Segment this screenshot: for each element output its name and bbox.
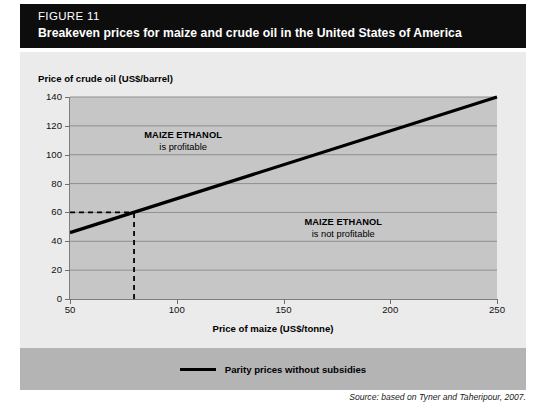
plot-area: MAIZE ETHANOL is profitable MAIZE ETHANO…	[70, 97, 497, 299]
y-tick-label: 100	[28, 150, 62, 160]
annotation-profitable-line2: is profitable	[144, 141, 222, 154]
y-tick-label: 40	[28, 236, 62, 246]
x-tick-label: 150	[264, 304, 304, 315]
annotation-not-profitable: MAIZE ETHANOL is not profitable	[304, 216, 382, 241]
y-tick-label: 20	[28, 265, 62, 275]
x-tick-label: 250	[477, 304, 517, 315]
x-tick-mark	[70, 299, 71, 304]
y-tick-mark	[65, 241, 70, 242]
y-tick-label: 120	[28, 121, 62, 131]
y-tick-label: 0	[28, 294, 62, 304]
annotation-not-profitable-line2: is not profitable	[304, 228, 382, 241]
legend-item: Parity prices without subsidies	[20, 348, 526, 390]
y-tick-mark	[65, 212, 70, 213]
x-tick-mark	[284, 299, 285, 304]
annotation-profitable-line1: MAIZE ETHANOL	[144, 129, 222, 142]
x-tick-mark	[497, 299, 498, 304]
y-tick-label: 60	[28, 207, 62, 217]
chart-panel: Price of crude oil (US$/barrel) MAIZE ET…	[20, 52, 526, 348]
x-tick-mark	[177, 299, 178, 304]
guide-lines	[70, 212, 134, 299]
y-tick-mark	[65, 270, 70, 271]
legend-band: Parity prices without subsidies	[20, 348, 526, 390]
legend-item-label: Parity prices without subsidies	[225, 364, 366, 375]
y-tick-mark	[65, 184, 70, 185]
y-tick-label: 140	[28, 92, 62, 102]
figure-number: FIGURE 11	[38, 9, 526, 24]
x-tick-mark	[390, 299, 391, 304]
figure-header: FIGURE 11 Breakeven prices for maize and…	[20, 4, 526, 48]
series-overlay	[70, 97, 497, 299]
source-note: Source: based on Tyner and Taheripour, 2…	[20, 392, 526, 402]
figure-title: Breakeven prices for maize and crude oil…	[38, 25, 526, 42]
annotation-not-profitable-line1: MAIZE ETHANOL	[304, 216, 382, 229]
figure-container: FIGURE 11 Breakeven prices for maize and…	[0, 0, 546, 419]
x-tick-label: 100	[157, 304, 197, 315]
annotation-profitable: MAIZE ETHANOL is profitable	[144, 129, 222, 154]
legend-line-swatch-icon	[180, 368, 216, 371]
y-tick-mark	[65, 155, 70, 156]
y-axis-title: Price of crude oil (US$/barrel)	[38, 73, 173, 84]
y-tick-mark	[65, 126, 70, 127]
x-tick-label: 200	[370, 304, 410, 315]
x-axis-title: Price of maize (US$/tonne)	[20, 323, 526, 334]
y-tick-mark	[65, 97, 70, 98]
x-tick-label: 50	[50, 304, 90, 315]
y-tick-label: 80	[28, 179, 62, 189]
